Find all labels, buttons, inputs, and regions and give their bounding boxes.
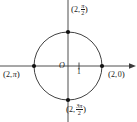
point-label-left: (2, π) [3, 70, 20, 79]
polar-circle-figure: O 1 (2, π 2 ) (2, 3π 2 ) (2, π) (2, 0) [0, 0, 137, 122]
point-label-top: (2, π 2 ) [71, 3, 88, 17]
point-label-right: (2, 0) [108, 70, 125, 79]
point-top [66, 30, 70, 34]
point-label-bottom: (2, 3π 2 ) [66, 103, 86, 117]
paren-close-bottom: ) [83, 104, 86, 114]
paren-close-top: ) [85, 4, 88, 14]
angle-fraction-top: π 2 [81, 3, 85, 17]
point-left [32, 64, 36, 68]
angle-denominator-top: 2 [81, 9, 85, 16]
x-axis-arrowhead [129, 63, 136, 69]
origin-label: O [59, 62, 65, 70]
paren-close-right: ) [122, 69, 125, 79]
point-bottom [66, 98, 70, 102]
angle-denominator-bottom: 2 [76, 109, 83, 116]
paren-close-left: ) [17, 69, 20, 79]
angle-fraction-bottom: 3π 2 [76, 103, 83, 117]
x-tick-one-label: 1 [77, 68, 81, 76]
point-right [100, 64, 104, 68]
